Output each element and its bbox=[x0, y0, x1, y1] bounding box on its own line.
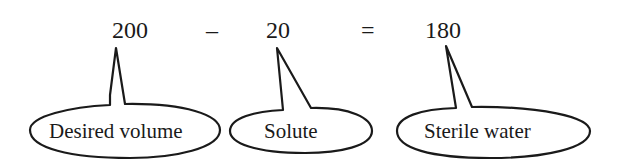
term-solute: 20 bbox=[266, 18, 290, 42]
term-desired-volume: 200 bbox=[112, 18, 148, 42]
term-sterile-water: 180 bbox=[425, 18, 461, 42]
label-desired-volume: Desired volume bbox=[49, 121, 183, 142]
equation-diagram: 200 – 20 = 180 Desired volume Solute Ste… bbox=[0, 0, 622, 162]
minus-operator: – bbox=[206, 18, 218, 42]
label-sterile-water: Sterile water bbox=[424, 121, 531, 142]
equals-operator: = bbox=[361, 18, 375, 42]
label-solute: Solute bbox=[264, 121, 318, 142]
